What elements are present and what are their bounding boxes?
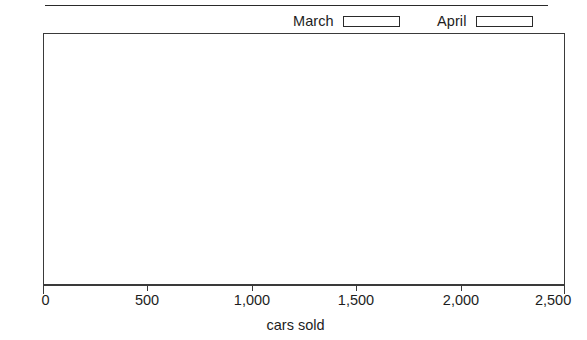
x-tick-label-0: 0 [41,293,49,308]
plot-frame [43,33,565,285]
legend-item-march[interactable]: March [293,10,400,32]
x-tick-500 [147,285,148,291]
x-tick-2000 [461,285,462,291]
legend-label-april: April [437,14,467,29]
x-tick-1000 [252,285,253,291]
header-rule [45,5,548,6]
x-tick-label-1500: 1,500 [338,293,374,308]
bar-chart-figure: March April 0 500 1,000 1,500 2,000 2,50… [0,0,587,340]
x-tick-label-500: 500 [135,293,159,308]
x-tick-label-2500: 2,500 [535,293,571,308]
plot-area [44,34,564,284]
legend-swatch-april [476,16,533,27]
x-axis-line [43,285,565,286]
x-axis-title-text: cars sold [266,317,324,333]
x-axis-title: cars sold [0,318,587,333]
legend-swatch-march [343,16,400,27]
x-tick-label-2000: 2,000 [443,293,479,308]
x-tick-1500 [356,285,357,291]
legend-label-march: March [293,14,334,29]
legend-item-april[interactable]: April [437,10,533,32]
x-tick-label-1000: 1,000 [234,293,270,308]
chart-legend: March April [0,10,587,32]
